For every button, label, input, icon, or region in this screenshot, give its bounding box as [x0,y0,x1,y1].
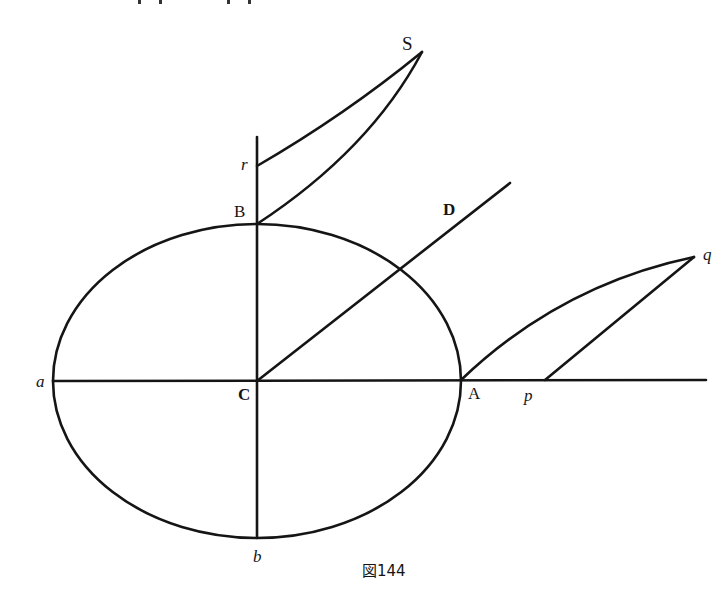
line-p-q [545,257,694,380]
label-r: r [241,156,248,173]
ellipse-figure: S r B D q a C A p b 図144 [0,0,727,604]
figure-drawing [0,0,727,604]
label-a-lower: a [36,373,45,390]
cropped-text-mark [138,0,141,4]
label-p: p [524,387,533,404]
figure-caption: 図144 [362,564,406,579]
cropped-text-mark [227,0,230,4]
major-axis-line [53,380,706,381]
diameter-cd-line [257,183,510,381]
label-s: S [402,34,413,53]
label-c: C [238,386,250,403]
cropped-text-mark [159,0,162,4]
label-b-upper: B [234,203,245,220]
label-b-lower: b [253,548,262,565]
label-q: q [703,246,712,263]
line-r-s [257,52,422,166]
curve-b-s [257,52,422,224]
label-d: D [443,201,455,218]
curve-a-q [461,257,694,380]
label-a-upper: A [468,385,480,402]
cropped-text-mark [248,0,251,4]
